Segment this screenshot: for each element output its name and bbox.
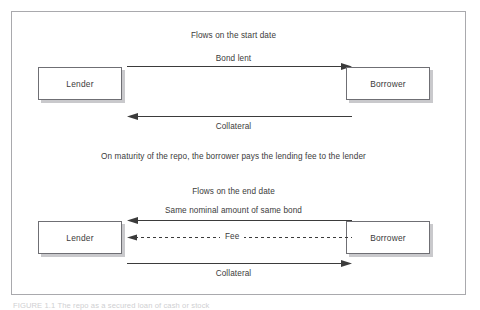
figure-frame: Flows on the start date Bond lent Lender… [11, 11, 466, 295]
party-box-lender-start: Lender [38, 67, 122, 100]
party-box-lender-end: Lender [38, 221, 122, 254]
flow-arrow-bond-lent [127, 62, 352, 71]
section-heading-end-date: Flows on the end date [12, 187, 455, 197]
flow-label-fee: Fee [220, 232, 244, 241]
flow-label-collateral-start: Collateral [12, 122, 455, 131]
party-label-borrower-start: Borrower [370, 79, 406, 89]
flow-arrow-collateral-start [127, 112, 352, 121]
flow-arrow-collateral-end [127, 259, 352, 268]
maturity-note: On maturity of the repo, the borrower pa… [12, 152, 455, 162]
party-box-borrower-end: Borrower [346, 221, 430, 254]
flow-label-same-nominal: Same nominal amount of same bond [12, 206, 455, 215]
party-label-lender-end: Lender [66, 233, 93, 243]
party-label-lender-start: Lender [66, 79, 93, 89]
section-heading-start-date: Flows on the start date [12, 31, 455, 41]
party-box-borrower-start: Borrower [346, 67, 430, 100]
figure-caption: FIGURE 1.1 The repo as a secured loan of… [13, 301, 209, 310]
flow-label-collateral-end: Collateral [12, 269, 455, 278]
flow-arrow-same-nominal [127, 216, 352, 225]
party-label-borrower-end: Borrower [370, 233, 406, 243]
